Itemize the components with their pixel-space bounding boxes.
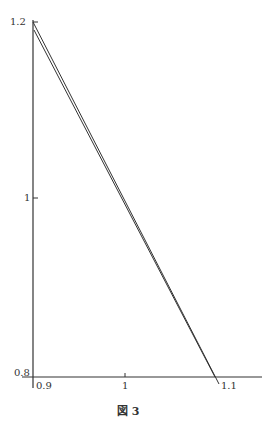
x-tick-label-right: 1.1 [221,381,237,391]
x-tick-label-mid: 1 [122,381,128,391]
y-tick-label-top: 1.2 [10,17,26,27]
series-line-2 [34,30,215,377]
x-tick-label-left: 0.9 [36,381,52,391]
chart-plot [0,0,276,423]
y-tick-label-mid: 1 [24,193,30,203]
figure-caption: 図 3 [117,402,139,418]
y-tick-label-bottom: 0.8 [14,368,30,378]
series-line-1 [33,22,219,384]
